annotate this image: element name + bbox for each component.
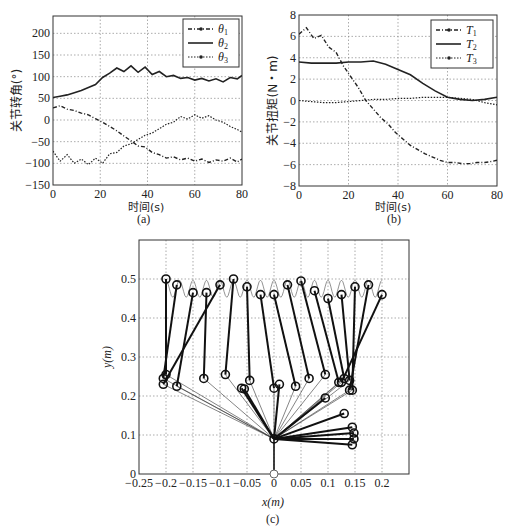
link-distal bbox=[261, 295, 275, 389]
y-tick-label: 150 bbox=[32, 48, 50, 62]
plot-c: −0.25−0.2−0.15−0.1−0.0500.050.10.150.200… bbox=[100, 240, 409, 490]
link-distal bbox=[204, 293, 207, 379]
y-tick-label: −4 bbox=[283, 136, 296, 150]
link-upper bbox=[204, 378, 274, 438]
x-tick-label: 0.1 bbox=[321, 476, 336, 490]
legend-marker bbox=[199, 55, 203, 59]
link-distal bbox=[342, 295, 383, 383]
y-tick-label: −100 bbox=[25, 156, 50, 170]
x-tick-label: 60 bbox=[189, 187, 201, 201]
caption-b: (b) bbox=[387, 212, 401, 227]
caption-a: (a) bbox=[137, 212, 150, 227]
plot-b: 020406080−8−6−4−202468关节扭矩(N・m)T1T2T3 bbox=[266, 8, 503, 202]
x-tick-label: 80 bbox=[236, 187, 248, 201]
y-tick-label: −2 bbox=[283, 115, 296, 129]
legend-marker bbox=[447, 28, 451, 32]
base-joint bbox=[270, 470, 278, 478]
y-tick-label: −50 bbox=[31, 135, 50, 149]
x-tick-label: −0.1 bbox=[209, 476, 231, 490]
link-distal bbox=[328, 299, 344, 379]
link-upper bbox=[274, 390, 350, 439]
x-tick-label: 0.05 bbox=[291, 476, 312, 490]
y-tick-label: 0.2 bbox=[121, 389, 136, 403]
y-axis-label: 关节转角(°) bbox=[9, 69, 24, 132]
link-distal bbox=[350, 285, 369, 390]
y-tick-label: 2 bbox=[290, 72, 296, 86]
y-tick-label: 8 bbox=[290, 8, 296, 22]
legend-marker bbox=[199, 27, 203, 31]
y-tick-label: 200 bbox=[32, 26, 50, 40]
legend: θ1θ2θ3 bbox=[183, 19, 239, 67]
link-distal bbox=[177, 293, 193, 387]
legend: T1T2T3 bbox=[431, 20, 493, 68]
xlabel-b: 时间(s) bbox=[375, 198, 411, 214]
y-tick-label: 100 bbox=[32, 70, 50, 84]
y-tick-label: 0.5 bbox=[121, 272, 136, 286]
y-axis-label: y(m) bbox=[100, 346, 114, 369]
x-tick-label: −0.05 bbox=[233, 476, 261, 490]
link-distal bbox=[225, 279, 233, 375]
x-tick-label: −0.2 bbox=[155, 476, 177, 490]
y-tick-label: −150 bbox=[25, 178, 50, 192]
caption-c: (c) bbox=[266, 512, 279, 527]
y-tick-label: 4 bbox=[290, 51, 296, 65]
x-tick-label: 0.15 bbox=[345, 476, 366, 490]
y-tick-label: −8 bbox=[283, 179, 296, 193]
x-tick-label: 20 bbox=[343, 188, 355, 202]
series-θ2 bbox=[53, 66, 242, 98]
y-axis-label: 关节扭矩(N・m) bbox=[266, 55, 280, 145]
xlabel-c: x(m) bbox=[262, 495, 284, 510]
x-tick-label: 0.2 bbox=[375, 476, 390, 490]
x-tick-label: 80 bbox=[491, 188, 503, 202]
y-tick-label: 0 bbox=[44, 113, 50, 127]
link-distal bbox=[247, 287, 250, 381]
y-tick-label: 0 bbox=[290, 94, 296, 108]
y-tick-label: 50 bbox=[38, 91, 50, 105]
legend-marker bbox=[447, 56, 451, 60]
y-tick-label: 0 bbox=[130, 467, 136, 481]
y-tick-label: −6 bbox=[283, 158, 296, 172]
y-tick-label: 0.3 bbox=[121, 350, 136, 364]
x-tick-label: −0.15 bbox=[179, 476, 207, 490]
x-tick-label: 60 bbox=[442, 188, 454, 202]
y-tick-label: 6 bbox=[290, 29, 296, 43]
figure-canvas: 020406080−150−100−50050100150200关节转角(°)θ… bbox=[0, 0, 515, 528]
x-tick-label: 0 bbox=[296, 188, 302, 202]
y-tick-label: 0.1 bbox=[121, 428, 136, 442]
plot-a: 020406080−150−100−50050100150200关节转角(°)θ… bbox=[9, 16, 248, 201]
x-tick-label: 20 bbox=[94, 187, 106, 201]
xlabel-a: 时间(s) bbox=[128, 198, 164, 214]
x-tick-label: 0 bbox=[50, 187, 56, 201]
y-tick-label: 0.4 bbox=[121, 311, 136, 325]
